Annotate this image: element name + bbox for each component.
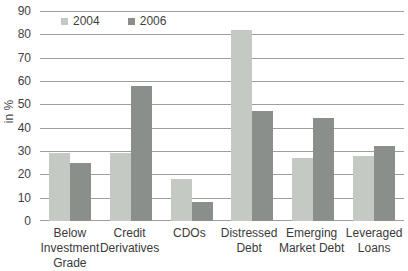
category-label-line: Derivatives [100,241,160,256]
bar-2006-below-investment-grade [70,163,91,221]
category-label-line: Emerging [279,226,344,241]
y-tick-label-40: 40 [0,121,31,135]
bar-2004-cdos [171,179,192,221]
category-label-line: Leveraged [344,226,404,241]
y-tick-label-60: 60 [0,74,31,88]
bar-2006-credit-derivatives [131,86,152,221]
category-label-line: Loans [344,241,404,256]
y-tick-label-50: 50 [0,97,31,111]
plot-area: 20042006 [40,11,404,221]
bar-2006-emerging-market-debt [313,118,334,221]
bar-group-below-investment-grade [40,11,101,221]
category-label-credit-derivatives: CreditDerivatives [100,226,160,271]
y-axis-tick-labels: 0102030405060708090 [0,11,34,221]
legend-label-2004: 2004 [73,14,100,28]
category-label-distressed-debt: DistressedDebt [219,226,279,271]
bar-2004-credit-derivatives [110,153,131,221]
category-label-line: Debt [219,241,279,256]
category-label-line: CDOs [159,226,219,241]
category-label-line: Below [40,226,100,241]
category-label-line: Investment [40,241,100,256]
bar-2004-leveraged-loans [353,156,374,221]
bar-group-emerging-market-debt [283,11,344,221]
y-tick-label-80: 80 [0,27,31,41]
legend-label-2006: 2006 [140,14,167,28]
y-tick-label-0: 0 [0,214,31,228]
category-label-line: Distressed [219,226,279,241]
legend-item-2006: 2006 [128,14,167,28]
category-label-line: Market Debt [279,241,344,256]
legend-swatch-2004 [61,18,68,25]
category-label-leveraged-loans: LeveragedLoans [344,226,404,271]
bar-2004-emerging-market-debt [292,158,313,221]
bar-group-distressed-debt [222,11,283,221]
bar-2006-leveraged-loans [374,146,395,221]
legend: 20042006 [61,14,166,28]
bar-2006-cdos [192,202,213,221]
category-label-below-investment-grade: BelowInvestmentGrade [40,226,100,271]
x-axis-category-labels: BelowInvestmentGradeCreditDerivativesCDO… [40,226,404,271]
category-label-emerging-market-debt: EmergingMarket Debt [279,226,344,271]
bar-group-leveraged-loans [343,11,404,221]
bar-group-cdos [161,11,222,221]
bar-2006-distressed-debt [252,111,273,221]
bar-2004-below-investment-grade [49,153,70,221]
legend-item-2004: 2004 [61,14,100,28]
bar-groups [40,11,404,221]
legend-swatch-2006 [128,18,135,25]
y-tick-label-90: 90 [0,4,31,18]
category-label-line: Grade [40,256,100,271]
category-label-cdos: CDOs [159,226,219,271]
y-tick-label-10: 10 [0,191,31,205]
y-tick-label-20: 20 [0,167,31,181]
category-label-line: Credit [100,226,160,241]
bar-chart: in % 0102030405060708090 20042006 BelowI… [0,0,408,271]
y-tick-label-70: 70 [0,51,31,65]
bar-group-credit-derivatives [101,11,162,221]
bar-2004-distressed-debt [231,30,252,221]
y-tick-label-30: 30 [0,144,31,158]
